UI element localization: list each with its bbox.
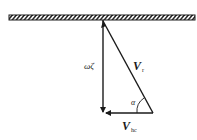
hypotenuse-label: Vr [133,60,144,73]
vhc-subscript: hc [131,127,137,133]
vhc-main: V [122,119,130,133]
angle-label: α [131,99,135,107]
ground-hatch [9,15,195,20]
velocity-triangle-diagram [0,0,197,140]
hypotenuse-vector-vr [103,21,153,113]
vr-subscript: r [142,67,144,73]
angle-arc-alpha [137,98,144,113]
zeta-symbol: ζ [90,61,94,71]
vertical-vector-label: ωζ [84,62,94,71]
vr-main: V [133,59,141,73]
horizontal-label: Vhc [122,120,137,133]
